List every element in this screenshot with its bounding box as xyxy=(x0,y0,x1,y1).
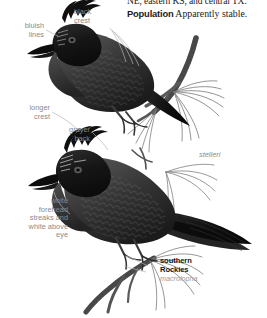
annotation-black-crest: black crest xyxy=(74,8,114,25)
annotation-bluish-lines: bluish lines xyxy=(2,22,44,39)
population-text: Apparently stable. xyxy=(175,8,247,19)
population-heading: Population xyxy=(127,8,173,19)
pine-branch-upper xyxy=(128,38,224,152)
population-line: Population Apparently stable. xyxy=(127,7,267,20)
subspecies-caption-stelleri: stelleri xyxy=(199,150,220,159)
stellers-jay-upper xyxy=(27,24,190,135)
body-text-block: NE, eastern KS, and central TX. Populati… xyxy=(127,0,267,20)
annotation-grayer-back: grayer back xyxy=(52,126,90,143)
field-guide-page: NE, eastern KS, and central TX. Populati… xyxy=(0,0,267,318)
leader-lines-upper xyxy=(46,28,139,66)
subspecies-scientific-stelleri: stelleri xyxy=(199,150,220,159)
subspecies-common-southern-rockies: southern Rockies xyxy=(160,256,198,274)
subspecies-caption-southern-rockies: southern Rockies macrolopha xyxy=(160,256,198,283)
bird-illustration xyxy=(0,0,267,318)
annotation-longer-crest: longer crest xyxy=(2,104,50,121)
annotation-white-forehead: white forehead streaks and white above e… xyxy=(0,197,68,240)
subspecies-scientific-macrolopha: macrolopha xyxy=(160,274,198,283)
clipped-range-text: NE, eastern KS, and central TX. xyxy=(127,0,267,6)
